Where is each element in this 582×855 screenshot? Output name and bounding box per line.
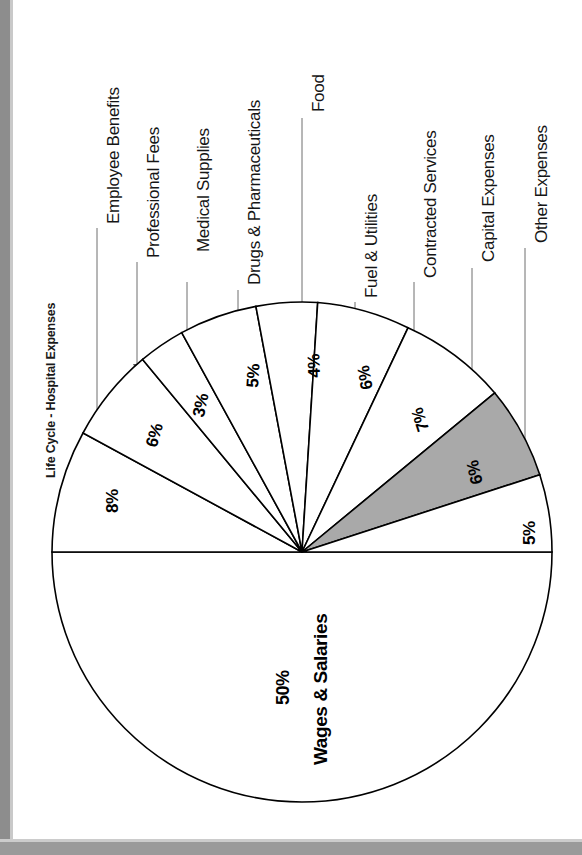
pie-slice-wages-salaries[interactable] [52,552,552,802]
callout-label-capital-expenses: Capital Expenses [479,135,499,263]
slice-value-employee-benefits: 8% [103,489,123,513]
slice-value-other-expenses: 5% [520,521,540,545]
callout-label-drugs-pharmaceuticals: Drugs & Pharmaceuticals [245,100,265,285]
slice-value-fuel-utilities: 6% [354,364,378,391]
chart-title: Life Cycle - Hospital Expenses [44,303,58,478]
callout-label-medical-supplies: Medical Supplies [194,128,214,252]
callout-label-other-expenses: Other Expenses [532,125,552,243]
pie-chart-graphic [0,0,582,855]
scanned-page: Life Cycle - Hospital Expenses Employee … [0,0,582,855]
slice-value-drugs-pharmaceuticals: 5% [243,363,265,388]
callout-label-professional-fees: Professional Fees [144,127,164,258]
slice-value-food: 4% [304,354,325,378]
pie-slices [52,302,552,802]
callout-label-food: Food [309,74,329,112]
callout-label-fuel-utilities: Fuel & Utilities [362,194,382,298]
slice-value-wages-salaries: 50% [273,670,294,705]
callout-label-contracted-services: Contracted Services [421,131,441,278]
callout-label-employee-benefits: Employee Benefits [104,87,124,224]
slice-label-wages-salaries: Wages & Salaries [310,614,332,765]
